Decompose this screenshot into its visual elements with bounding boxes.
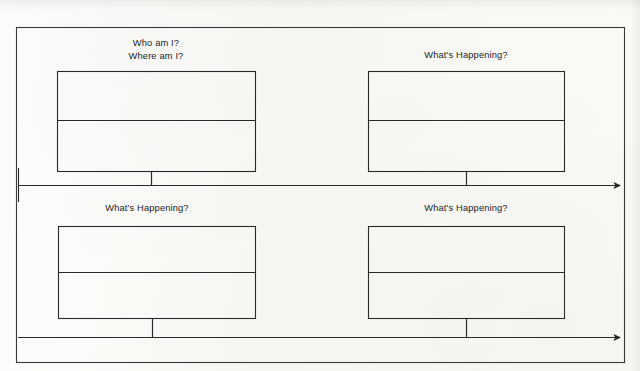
- panel-bottom-right-prompt: What's Happening?: [356, 202, 576, 215]
- panel-top-right-frame[interactable]: [369, 72, 565, 172]
- worksheet-page: Who am I?Where am I?What's Happening?Wha…: [0, 0, 640, 371]
- panel-top-left-prompt-line-1: Who am I?: [46, 37, 266, 50]
- outer-page-border: [17, 28, 625, 363]
- panel-top-left[interactable]: [58, 72, 256, 186]
- panel-top-right-prompt: What's Happening?: [356, 49, 576, 62]
- panel-top-right-prompt-line-1: What's Happening?: [356, 49, 576, 62]
- timelines-group: [18, 168, 620, 338]
- panel-top-left-prompt: Who am I?Where am I?: [46, 37, 266, 62]
- panel-bottom-left-prompt: What's Happening?: [37, 202, 257, 215]
- panel-bottom-right[interactable]: [369, 227, 565, 338]
- panel-top-left-prompt-line-2: Where am I?: [46, 50, 266, 63]
- panel-bottom-right-prompt-line-1: What's Happening?: [356, 202, 576, 215]
- panel-bottom-left-prompt-line-1: What's Happening?: [37, 202, 257, 215]
- panel-bottom-left[interactable]: [59, 227, 256, 338]
- panel-top-left-frame[interactable]: [58, 72, 256, 172]
- panel-top-right[interactable]: [369, 72, 565, 186]
